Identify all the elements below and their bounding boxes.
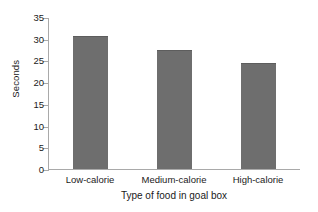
- y-axis-tick: 0: [48, 170, 49, 171]
- bars-layer: [48, 18, 300, 170]
- x-axis-category-label: High-calorie: [233, 174, 284, 186]
- y-axis-tick-label: 35: [33, 12, 44, 23]
- bar: [157, 50, 192, 169]
- y-axis-tick-label: 30: [33, 34, 44, 45]
- x-axis-category-label: Low-calorie: [66, 174, 115, 186]
- y-axis-title: Seconds: [10, 60, 24, 98]
- x-axis-category-label: Medium-calorie: [142, 174, 207, 186]
- bar-chart-figure: Seconds 05101520253035 Low-calorieMedium…: [0, 0, 318, 212]
- plot-area: 05101520253035: [48, 18, 300, 170]
- bar: [73, 36, 108, 169]
- y-axis-tick-label: 0: [39, 164, 44, 175]
- x-axis-title: Type of food in goal box: [48, 190, 300, 201]
- y-axis-tick-label: 20: [33, 77, 44, 88]
- y-axis-tick-label: 10: [33, 121, 44, 132]
- y-axis-tick-label: 5: [39, 142, 44, 153]
- y-axis-tick-label: 15: [33, 99, 44, 110]
- y-axis-tick-label: 25: [33, 55, 44, 66]
- bar: [241, 63, 276, 169]
